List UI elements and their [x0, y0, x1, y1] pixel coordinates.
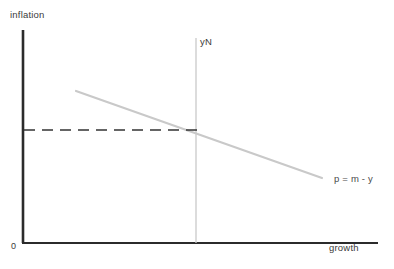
origin-label: 0 [11, 242, 16, 251]
y-axis-label: inflation [10, 10, 45, 20]
inflation-growth-figure: inflation growth 0 yN p = m - y [0, 0, 394, 269]
x-axis-label: growth [329, 243, 359, 253]
potential-output-label: yN [200, 37, 212, 47]
plot-canvas [0, 0, 394, 269]
inflation-curve-line [76, 91, 322, 178]
curve-equation-label: p = m - y [334, 174, 373, 184]
